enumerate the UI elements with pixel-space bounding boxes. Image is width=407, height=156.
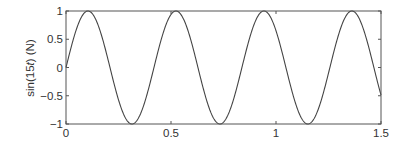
x-tick-label: 1.5: [373, 127, 389, 139]
plot-area: [66, 11, 381, 124]
y-tick-label: 0.5: [47, 33, 63, 45]
x-tick-label: 1: [273, 127, 279, 139]
y-tick-label: 0: [57, 62, 63, 74]
series-line: [66, 11, 381, 124]
y-tick-label: −1: [50, 118, 63, 130]
y-axis-label: sin(15t) (N): [24, 39, 36, 97]
y-tick-label: −0.5: [40, 90, 63, 102]
x-tick-label: 0.5: [163, 127, 179, 139]
line-chart: 00.511.5 −1−0.500.51 sin(15t) (N): [0, 0, 407, 156]
plot-frame: [66, 11, 381, 124]
x-tick-label: 0: [63, 127, 69, 139]
y-tick-label: 1: [57, 5, 63, 17]
